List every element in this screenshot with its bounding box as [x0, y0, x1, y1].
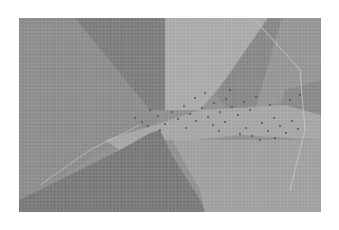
scatter-point [212, 124, 214, 126]
plot-area [19, 18, 321, 212]
scatter-point [194, 97, 196, 99]
scatter-point [171, 111, 173, 113]
scatter-point [183, 105, 185, 107]
scatter-point [231, 106, 233, 108]
scatter-point [279, 125, 281, 127]
scatter-point [267, 130, 269, 132]
scatter-point [164, 123, 166, 125]
scatter-point [225, 98, 227, 100]
scatter-point [285, 132, 287, 134]
scatter-point [274, 137, 276, 139]
scatter-point [239, 133, 241, 135]
scatter-point [185, 127, 187, 129]
scatter-point [291, 120, 293, 122]
scatter-point [195, 120, 197, 122]
scatter-point [204, 92, 206, 94]
scatter-point [189, 113, 191, 115]
scatter-point [245, 127, 247, 129]
scatter-point [237, 114, 239, 116]
scatter-point [243, 101, 245, 103]
grid-overlay [19, 18, 321, 212]
scatter-point [159, 129, 161, 131]
scatter-point [201, 107, 203, 109]
scatter-point [251, 135, 253, 137]
scatter-point [261, 122, 263, 124]
scatter-point [259, 139, 261, 141]
scatter-point [213, 102, 215, 104]
scatter-point [229, 89, 231, 91]
scatter-point [297, 128, 299, 130]
scatter-point [147, 125, 149, 127]
scatter-point [273, 117, 275, 119]
scatter-point [255, 96, 257, 98]
scatter-point [218, 130, 220, 132]
scatter-point [157, 115, 159, 117]
decision-region-chart [0, 0, 339, 230]
scatter-point [134, 117, 136, 119]
scatter-point [249, 109, 251, 111]
scatter-point [299, 94, 301, 96]
scatter-point [177, 118, 179, 120]
scatter-point [141, 121, 143, 123]
scatter-point [224, 121, 226, 123]
scatter-point [269, 104, 271, 106]
scatter-point [149, 109, 151, 111]
scatter-point [289, 99, 291, 101]
scatter-point [207, 116, 209, 118]
scatter-point [219, 111, 221, 113]
